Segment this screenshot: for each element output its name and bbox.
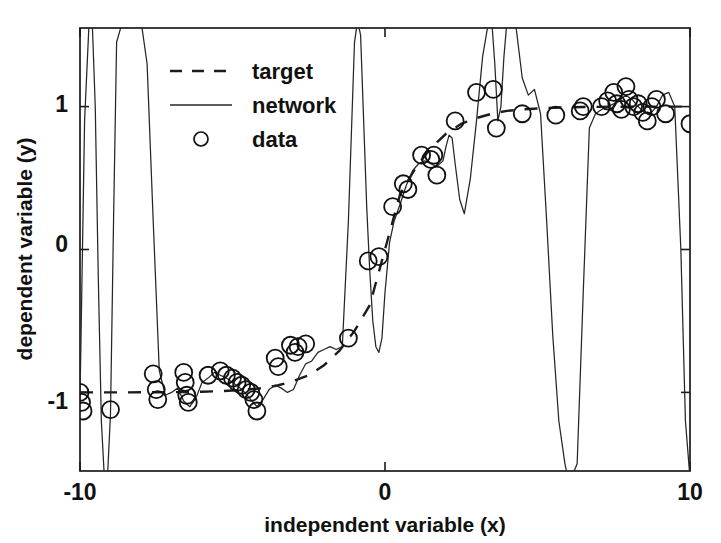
data-point-marker [425, 147, 442, 164]
data-point-marker [488, 120, 505, 137]
xtick-label-neg10: -10 [63, 479, 96, 505]
data-point-marker [395, 175, 412, 192]
data-point-marker [145, 365, 162, 382]
y-axis-title: dependent variable (y) [13, 138, 36, 361]
chart-svg: 1 0 -1 -10 0 10 independent variable (x)… [0, 0, 721, 543]
data-point-marker [360, 252, 377, 269]
data-point-marker [547, 107, 564, 124]
data-point-marker [370, 248, 387, 265]
data-point-marker [428, 167, 445, 184]
chart-figure: 1 0 -1 -10 0 10 independent variable (x)… [0, 0, 721, 543]
xtick-label-10: 10 [677, 479, 703, 505]
data-point-marker [468, 84, 485, 101]
ytick-label-0: 0 [55, 231, 68, 257]
x-axis-title: independent variable (x) [264, 513, 506, 536]
legend-data-swatch [194, 132, 208, 146]
data-point-marker [399, 181, 416, 198]
legend-label-target: target [252, 59, 314, 84]
data-point-marker [200, 367, 217, 384]
data-point-marker [514, 105, 531, 122]
series-data-markers [72, 78, 699, 419]
data-point-marker [248, 402, 265, 419]
data-point-marker [485, 81, 502, 98]
xtick-label-0: 0 [379, 479, 392, 505]
data-point-marker [212, 362, 229, 379]
chart-legend: target network data [170, 59, 337, 152]
data-point-marker [149, 391, 166, 408]
ytick-label-neg1: -1 [48, 388, 69, 414]
data-point-marker [657, 105, 674, 122]
legend-label-data: data [252, 127, 298, 152]
legend-label-network: network [252, 93, 337, 118]
data-point-marker [608, 95, 625, 112]
ytick-label-1: 1 [55, 91, 68, 117]
data-point-marker [447, 112, 464, 129]
